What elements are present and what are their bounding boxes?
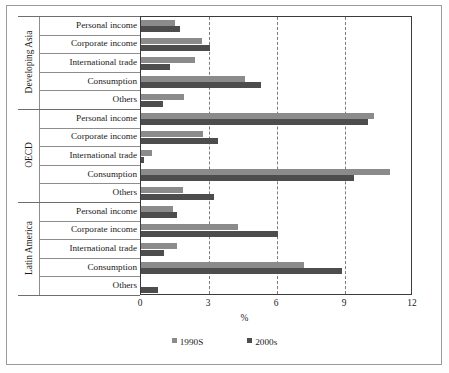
bar-2000s-international-trade — [141, 157, 144, 163]
legend-item-1990s[interactable]: 1990S — [172, 336, 204, 347]
bar-1990s-international-trade — [141, 150, 152, 156]
gridline-3 — [209, 17, 210, 294]
legend-item-2000s[interactable]: 2000s — [247, 336, 277, 347]
bar-2000s-consumption — [141, 82, 261, 88]
category-label-column: Personal incomeCorporate incomeInternati… — [40, 16, 140, 295]
x-tick-label-6: 6 — [261, 298, 291, 308]
category-separator — [40, 276, 140, 277]
group-divider-horizontal — [18, 295, 140, 296]
category-label-personal-income: Personal income — [76, 206, 137, 216]
plot-area — [140, 16, 412, 295]
bar-1990s-others — [141, 94, 184, 100]
category-label-consumption: Consumption — [87, 169, 137, 179]
bar-1990s-consumption — [141, 169, 390, 175]
legend-label: 1990S — [180, 337, 204, 347]
category-label-corporate-income: Corporate income — [71, 224, 137, 234]
category-label-international-trade: International trade — [69, 150, 137, 160]
bar-1990s-international-trade — [141, 57, 195, 63]
category-separator — [40, 221, 140, 222]
group-label-latin-america: Latin America — [24, 200, 34, 296]
bar-1990s-corporate-income — [141, 38, 202, 44]
x-tick-label-0: 0 — [125, 298, 155, 308]
category-label-corporate-income: Corporate income — [71, 38, 137, 48]
category-separator — [40, 72, 140, 73]
chart-legend: 1990S2000s — [0, 336, 449, 347]
bar-2000s-personal-income — [141, 119, 368, 125]
gridline-6 — [277, 17, 278, 294]
category-label-others: Others — [113, 94, 138, 104]
legend-swatch-icon — [247, 338, 252, 343]
category-separator — [40, 53, 140, 54]
category-label-consumption: Consumption — [87, 262, 137, 272]
x-tick-label-12: 12 — [397, 298, 427, 308]
bar-1990s-corporate-income — [141, 131, 203, 137]
legend-label: 2000s — [255, 337, 277, 347]
gridline-9 — [345, 17, 346, 294]
x-axis-title: % — [0, 313, 449, 323]
bar-1990s-corporate-income — [141, 224, 238, 230]
legend-swatch-icon — [172, 338, 177, 343]
category-label-international-trade: International trade — [69, 57, 137, 67]
bar-1990s-consumption — [141, 76, 245, 82]
bar-2000s-international-trade — [141, 64, 170, 70]
bar-1990s-personal-income — [141, 206, 173, 212]
category-label-personal-income: Personal income — [76, 20, 137, 30]
category-separator — [40, 183, 140, 184]
bar-1990s-others — [141, 187, 183, 193]
category-separator — [40, 146, 140, 147]
category-separator — [40, 90, 140, 91]
bar-2000s-others — [141, 194, 214, 200]
bar-2000s-international-trade — [141, 250, 164, 256]
group-label-oecd: OECD — [24, 107, 34, 203]
x-axis-title-text: % — [241, 313, 249, 323]
category-separator — [40, 128, 140, 129]
x-tick-label-3: 3 — [193, 298, 223, 308]
category-separator — [40, 165, 140, 166]
category-label-others: Others — [113, 187, 138, 197]
category-label-corporate-income: Corporate income — [71, 131, 137, 141]
category-label-international-trade: International trade — [69, 243, 137, 253]
bar-2000s-consumption — [141, 175, 354, 181]
group-label-developing-asia: Developing Asia — [24, 14, 34, 110]
bar-1990s-consumption — [141, 262, 304, 268]
category-separator — [40, 35, 140, 36]
category-label-others: Others — [113, 280, 138, 290]
category-separator — [40, 239, 140, 240]
x-axis-tick-labels: 036912 — [0, 298, 449, 314]
bar-2000s-others — [141, 287, 158, 293]
category-label-personal-income: Personal income — [76, 113, 137, 123]
bar-2000s-personal-income — [141, 212, 177, 218]
bar-2000s-corporate-income — [141, 231, 278, 237]
bar-2000s-consumption — [141, 268, 342, 274]
bar-1990s-personal-income — [141, 113, 374, 119]
category-separator — [40, 258, 140, 259]
chart-figure: Developing AsiaOECDLatin America Persona… — [0, 0, 449, 373]
bar-1990s-personal-income — [141, 20, 175, 26]
bar-2000s-corporate-income — [141, 45, 210, 51]
group-label-column: Developing AsiaOECDLatin America — [18, 16, 40, 295]
bar-2000s-personal-income — [141, 26, 180, 32]
bar-2000s-corporate-income — [141, 138, 218, 144]
category-label-consumption: Consumption — [87, 76, 137, 86]
bar-1990s-international-trade — [141, 243, 177, 249]
x-tick-label-9: 9 — [329, 298, 359, 308]
bar-2000s-others — [141, 101, 163, 107]
